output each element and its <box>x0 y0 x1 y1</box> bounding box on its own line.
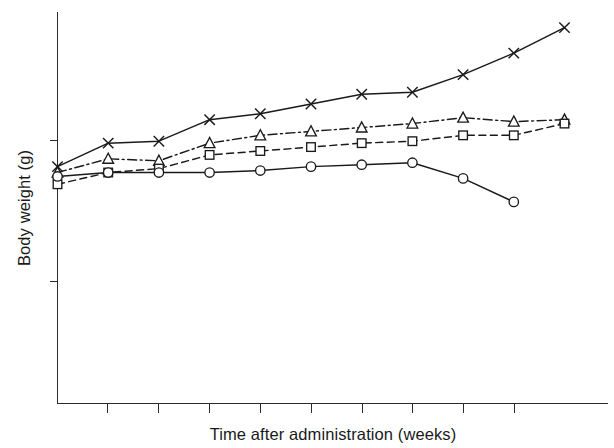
series-triangle-marker <box>204 138 215 148</box>
series-cross-marker <box>458 69 468 79</box>
series-triangle-marker <box>306 126 317 136</box>
data-series-layer <box>52 22 570 206</box>
series-circle-marker <box>458 174 467 183</box>
series-cross-marker <box>509 48 519 58</box>
series-square-marker <box>459 131 468 140</box>
series-cross-marker <box>559 22 569 32</box>
series-circle-marker <box>357 160 366 169</box>
series-circle-marker <box>205 168 214 177</box>
series-triangle-marker <box>458 112 469 122</box>
series-square-marker <box>510 131 519 140</box>
series-circle-marker <box>104 168 113 177</box>
series-circle-marker <box>154 168 163 177</box>
series-circle-marker <box>408 158 417 167</box>
y-axis-title: Body weight (g) <box>15 150 33 266</box>
series-circle-line <box>58 163 514 202</box>
series-square-marker <box>205 151 214 160</box>
series-square-marker <box>408 137 417 146</box>
series-square-marker <box>560 119 569 128</box>
line-chart-canvas: Time after administration (weeks) Body w… <box>0 0 614 448</box>
series-square-marker <box>357 139 366 148</box>
series-square-marker <box>307 143 316 152</box>
series-circle-marker <box>509 197 518 206</box>
chart-figure: Time after administration (weeks) Body w… <box>0 0 614 448</box>
y-axis-ticks <box>50 141 58 282</box>
series-circle-marker <box>53 172 62 181</box>
x-axis-title: Time after administration (weeks) <box>210 425 457 443</box>
x-axis-ticks <box>108 404 515 413</box>
series-circle-marker <box>306 162 315 171</box>
series-square-marker <box>256 147 265 156</box>
series-circle-marker <box>256 166 265 175</box>
